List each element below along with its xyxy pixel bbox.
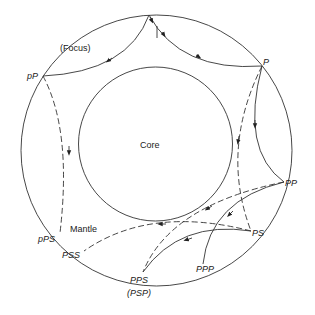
label-PP: PP [285, 179, 297, 188]
ray-pP-to-pPS [43, 76, 64, 233]
core-label: Core [140, 141, 160, 150]
earth-surface [21, 15, 292, 286]
label-pP: pP [27, 72, 38, 81]
label-PSS: PSS [62, 251, 80, 260]
label-PS: PS [252, 229, 264, 238]
label-P: P [263, 58, 269, 67]
focus-label: (Focus) [60, 44, 91, 53]
ray-P-to-PS [238, 66, 262, 231]
label-PPP: PPP [196, 265, 214, 274]
ray-P-to-PP [255, 66, 284, 182]
ray-focus-to-pP [43, 15, 149, 76]
ray-path-diagram [0, 0, 315, 315]
label-PPS: PPS [130, 276, 148, 285]
mantle-label: Mantle [70, 225, 97, 234]
ray-PP-to-PPS [143, 182, 284, 272]
ray-focus-to-P [149, 15, 262, 67]
ray-PP-to-PPP [203, 182, 284, 264]
label-PSP: (PSP) [127, 289, 151, 298]
label-pPS: pPS [38, 235, 55, 244]
